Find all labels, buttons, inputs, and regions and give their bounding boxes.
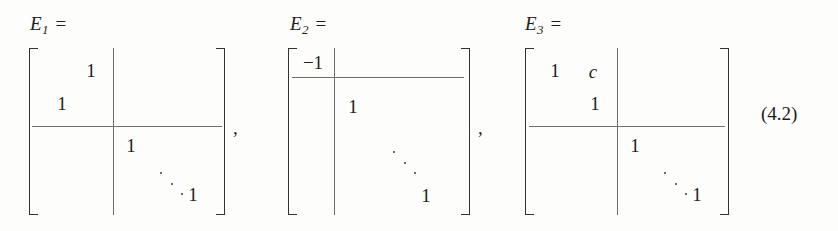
matrix-label-e1-equals: = (56, 13, 67, 34)
matrix-e1-entry-r2c1: 1 (57, 94, 67, 113)
matrix-e1: 1 1 1 1 (29, 48, 225, 215)
matrix-e2-entry-r5c5: 1 (421, 186, 431, 205)
matrix-label-e1-subscript: 1 (42, 22, 49, 37)
matrix-label-e2-base: E (290, 13, 302, 34)
matrix-label-e3-base: E (525, 13, 537, 34)
matrix-e2-entry-r2c2: 1 (348, 97, 358, 116)
matrix-label-e2-subscript: 2 (302, 22, 309, 37)
matrix-e1-entry-r3c3: 1 (126, 136, 136, 155)
equation-block: E1= E2= E3= 1 1 1 1 , −1 1 1 , (0, 0, 838, 231)
matrix-e3-vertical-partition-rule (617, 48, 618, 215)
matrix-e3-right-bracket (720, 48, 729, 215)
matrix-label-e2-equals: = (316, 13, 327, 34)
matrix-label-e2: E2= (290, 14, 326, 36)
matrix-e3-entry-r2c2: 1 (590, 94, 600, 113)
matrix-e3-entry-r5c5: 1 (692, 185, 702, 204)
separator-comma-1: , (233, 118, 238, 137)
matrix-e2-vertical-partition-rule (334, 48, 335, 215)
matrix-label-e3-subscript: 3 (537, 22, 544, 37)
matrix-e1-left-bracket (29, 48, 38, 215)
matrix-e1-right-bracket (216, 48, 225, 215)
matrix-label-e3: E3= (525, 14, 561, 36)
matrix-e2-right-bracket (461, 48, 470, 215)
matrix-e1-horizontal-partition-rule (32, 126, 222, 127)
matrix-e2: −1 1 1 (288, 48, 470, 215)
matrix-e2-left-bracket (288, 48, 297, 215)
matrix-label-e1: E1= (30, 14, 66, 36)
matrix-e3-entry-r3c3: 1 (630, 136, 640, 155)
matrix-e2-entry-r1c1: −1 (303, 53, 323, 72)
matrix-e1-entry-r5c5: 1 (188, 185, 198, 204)
matrix-e3-left-bracket (525, 48, 534, 215)
equation-number: (4.2) (761, 104, 797, 123)
matrix-e3-entry-r1c1: 1 (550, 61, 560, 80)
matrix-label-e3-equals: = (551, 13, 562, 34)
matrix-e3-horizontal-partition-rule (529, 126, 725, 127)
matrix-label-e1-base: E (30, 13, 42, 34)
matrix-e3-entry-r1c2: c (589, 62, 597, 81)
matrix-e2-horizontal-partition-rule (292, 77, 464, 78)
matrix-e3: 1 c 1 1 1 (525, 48, 729, 215)
matrix-e1-vertical-partition-rule (113, 48, 114, 215)
separator-comma-2: , (478, 118, 483, 137)
matrix-e1-entry-r1c2: 1 (86, 61, 96, 80)
